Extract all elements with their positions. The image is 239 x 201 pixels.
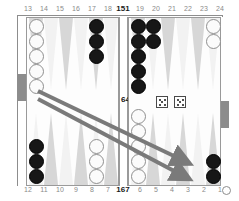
checker-black-19-5[interactable] (131, 79, 146, 94)
point-label-6: 6 (132, 185, 148, 195)
checker-black-1-1[interactable] (206, 169, 221, 184)
checker-white-6-3[interactable] (131, 139, 146, 154)
right-bearoff-tray[interactable] (221, 17, 229, 186)
checker-white-6-4[interactable] (131, 124, 146, 139)
checker-black-12-2[interactable] (29, 154, 44, 169)
checker-white-8-3[interactable] (89, 139, 104, 154)
backgammon-board: 13 14 15 16 17 18 151 19 20 21 22 23 24 … (0, 0, 239, 201)
point-label-21: 21 (164, 4, 180, 14)
checker-black-19-1[interactable] (131, 19, 146, 34)
point-5[interactable] (146, 113, 161, 185)
point-14[interactable] (44, 18, 59, 90)
pip-count-bottom: 167 (113, 185, 133, 195)
point-7[interactable] (104, 113, 119, 185)
point-label-11: 11 (36, 185, 52, 195)
checker-black-20-2[interactable] (146, 34, 161, 49)
checker-white-13-2[interactable] (29, 34, 44, 49)
point-label-10: 10 (52, 185, 68, 195)
checker-black-19-2[interactable] (131, 34, 146, 49)
point-9[interactable] (74, 113, 89, 185)
bearoff-tray-icon[interactable] (222, 186, 231, 195)
checker-white-24-2[interactable] (206, 34, 221, 49)
point-label-4: 4 (164, 185, 180, 195)
point-15[interactable] (59, 18, 74, 90)
point-label-24: 24 (212, 4, 228, 14)
point-label-20: 20 (148, 4, 164, 14)
point-label-15: 15 (52, 4, 68, 14)
point-label-14: 14 (36, 4, 52, 14)
board-right-half (128, 17, 221, 186)
die-right[interactable] (174, 96, 186, 108)
checker-black-12-1[interactable] (29, 169, 44, 184)
pip-count-top: 151 (113, 4, 133, 14)
point-3[interactable] (176, 113, 191, 185)
point-label-5: 5 (148, 185, 164, 195)
point-10[interactable] (59, 113, 74, 185)
checker-black-12-3[interactable] (29, 139, 44, 154)
point-18[interactable] (104, 18, 119, 90)
checker-white-13-5[interactable] (29, 79, 44, 94)
point-21[interactable] (161, 18, 176, 90)
checker-white-6-2[interactable] (131, 154, 146, 169)
point-label-12: 12 (20, 185, 36, 195)
point-label-16: 16 (68, 4, 84, 14)
checker-black-17-2[interactable] (89, 34, 104, 49)
checker-black-19-4[interactable] (131, 64, 146, 79)
point-label-17: 17 (84, 4, 100, 14)
die-left[interactable] (156, 96, 168, 108)
board-frame: 64 (17, 15, 223, 186)
right-tray-block-lower (221, 101, 229, 128)
point-label-23: 23 (196, 4, 212, 14)
point-label-2: 2 (196, 185, 212, 195)
checker-white-6-5[interactable] (131, 109, 146, 124)
center-bar[interactable]: 64 (119, 17, 128, 186)
point-label-13: 13 (20, 4, 36, 14)
left-tray-block-upper (18, 74, 26, 101)
bottom-point-label-row: 12 11 10 9 8 7 167 6 5 4 3 2 1 (0, 185, 239, 199)
checker-black-20-1[interactable] (146, 19, 161, 34)
checker-white-13-3[interactable] (29, 49, 44, 64)
checker-white-8-2[interactable] (89, 154, 104, 169)
point-label-9: 9 (68, 185, 84, 195)
point-16[interactable] (74, 18, 89, 90)
point-22[interactable] (176, 18, 191, 90)
point-label-22: 22 (180, 4, 196, 14)
point-label-3: 3 (180, 185, 196, 195)
point-11[interactable] (44, 113, 59, 185)
board-left-half (26, 17, 119, 186)
checker-black-19-3[interactable] (131, 49, 146, 64)
point-4[interactable] (161, 113, 176, 185)
checker-black-17-3[interactable] (89, 49, 104, 64)
checker-white-24-1[interactable] (206, 19, 221, 34)
checker-black-1-2[interactable] (206, 154, 221, 169)
checker-white-6-1[interactable] (131, 169, 146, 184)
point-2[interactable] (191, 113, 206, 185)
point-label-8: 8 (84, 185, 100, 195)
checker-white-8-1[interactable] (89, 169, 104, 184)
checker-black-17-1[interactable] (89, 19, 104, 34)
checker-white-13-4[interactable] (29, 64, 44, 79)
point-23[interactable] (191, 18, 206, 90)
point-label-19: 19 (132, 4, 148, 14)
left-bearoff-tray[interactable] (18, 17, 26, 186)
checker-white-13-1[interactable] (29, 19, 44, 34)
